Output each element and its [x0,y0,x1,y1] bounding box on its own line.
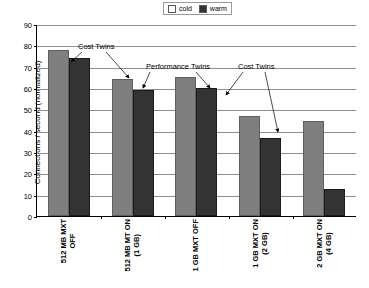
bar-warm [133,90,154,216]
bar-warm [69,58,90,216]
bar-warm [196,88,217,216]
y-tick-mark [34,217,37,218]
x-axis-labels: 512 MB MXTOFF512 MB MT ON(1 GB)1 GB MXT … [36,219,356,287]
legend-swatch-warm [199,5,207,13]
x-label-cell: 1 GB MXT OFF [164,219,228,287]
y-tick-label: 0 [28,213,32,222]
bar-warm [324,189,345,216]
x-axis-label: 1 GB MXT ON(2 GB) [252,219,269,268]
bar-cold [112,79,133,216]
bar-group [101,25,165,216]
bar-cold [48,50,69,216]
y-tick-label: 80 [24,42,32,51]
annotation-cost-twins-left: Cost Twins [78,42,115,51]
x-axis-label: 1 GB MXT OFF [192,219,201,272]
legend-label-warm: warm [210,4,227,13]
bar-cold [175,77,196,216]
legend-item-warm: warm [199,4,227,13]
legend-label-cold: cold [179,4,192,13]
bar-group [228,25,292,216]
x-label-cell: 512 MB MXTOFF [36,219,100,287]
y-tick-label: 40 [24,127,32,136]
y-tick-label: 70 [24,63,32,72]
y-tick-label: 20 [24,170,32,179]
x-label-cell: 512 MB MT ON(1 GB) [100,219,164,287]
plot-area: 9080706050403020100 [36,25,356,217]
x-axis-label: 2 GB MXT ON(4 GB) [316,219,333,268]
legend-swatch-cold [168,5,176,13]
plot-wrapper: 9080706050403020100 [36,25,356,217]
x-axis-label: 512 MB MXTOFF [60,219,77,263]
bar-group [37,25,101,216]
y-tick-label: 60 [24,85,32,94]
bar-group [165,25,229,216]
y-tick-label: 90 [24,21,32,30]
chart-legend: cold warm [163,2,232,15]
y-tick-label: 10 [24,191,32,200]
x-axis-label: 512 MB MT ON(1 GB) [124,219,141,272]
y-tick-label: 30 [24,149,32,158]
bar-cold [303,121,324,216]
x-label-cell: 2 GB MXT ON(4 GB) [292,219,356,287]
bar-group [292,25,356,216]
bar-cold [239,116,260,216]
legend-item-cold: cold [168,4,192,13]
bar-groups [37,25,356,216]
y-tick-label: 50 [24,106,32,115]
annotation-performance-twins: Performance Twins [146,62,210,71]
bar-warm [260,138,281,216]
annotation-cost-twins-right: Cost Twins [238,62,275,71]
x-label-cell: 1 GB MXT ON(2 GB) [228,219,292,287]
